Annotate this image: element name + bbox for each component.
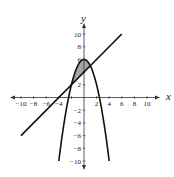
- x-tick-label: 2: [95, 100, 99, 108]
- y-tick-label: −6: [74, 132, 82, 140]
- y-axis-down-arrow-icon: [82, 165, 86, 170]
- y-tick-label: 2: [78, 81, 82, 89]
- graph-figure: −10−8−6−424681010862−2−4−6−8−10 x y: [0, 0, 174, 177]
- y-tick-label: −4: [74, 119, 82, 127]
- x-tick-label: 6: [120, 100, 124, 108]
- plot-area: −10−8−6−424681010862−2−4−6−8−10 x y: [0, 0, 174, 177]
- y-tick-label: −10: [70, 158, 81, 166]
- y-tick-label: 10: [74, 31, 82, 39]
- axes: [10, 23, 160, 170]
- y-tick-label: 8: [78, 43, 82, 51]
- x-tick-label: 10: [144, 100, 152, 108]
- x-axis-label: x: [165, 90, 171, 102]
- y-tick-label: −8: [74, 145, 82, 153]
- tick-labels: −10−8−6−424681010862−2−4−6−8−10: [16, 31, 151, 166]
- x-axis-left-arrow-icon: [10, 96, 15, 100]
- y-axis-label: y: [80, 12, 86, 24]
- x-tick-label: 4: [107, 100, 111, 108]
- y-tick-label: −2: [74, 107, 82, 115]
- x-tick-label: 8: [133, 100, 137, 108]
- x-tick-label: −8: [30, 100, 38, 108]
- x-axis-right-arrow-icon: [155, 96, 160, 100]
- x-tick-label: −10: [16, 100, 27, 108]
